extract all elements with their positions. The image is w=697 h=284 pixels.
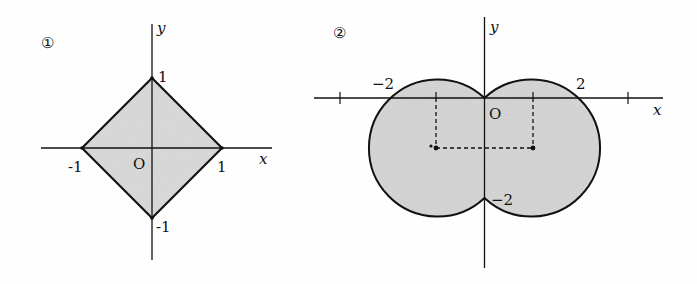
y-axis-label: y xyxy=(156,19,166,37)
origin-label: O xyxy=(489,105,501,123)
tick-label-x-neg: -1 xyxy=(68,158,83,176)
figure-1-marker: ① xyxy=(41,34,54,52)
origin-label: O xyxy=(133,155,145,173)
tick-label-y-neg: -1 xyxy=(156,218,171,236)
figure-2-marker: ② xyxy=(333,24,346,42)
x-axis-label: x xyxy=(259,150,268,168)
figure-2: ② y x O −2 2 −2 xyxy=(314,17,663,268)
tick-label-y-neg: −2 xyxy=(491,191,513,209)
y-axis-label: y xyxy=(489,18,499,36)
tick-label-x-neg: −2 xyxy=(372,75,394,93)
tick-label-x-pos: 2 xyxy=(576,75,586,93)
center-right xyxy=(531,146,536,151)
tick-label-x-pos: 1 xyxy=(217,158,227,176)
figure-1: ① y x O 1 -1 1 -1 xyxy=(41,19,272,260)
diagram-canvas: ① y x O 1 -1 1 -1 ② y x O −2 2 xyxy=(0,0,697,284)
center-left xyxy=(434,146,439,151)
tick-label-y-pos: 1 xyxy=(158,68,168,86)
x-axis-label: x xyxy=(653,101,662,119)
